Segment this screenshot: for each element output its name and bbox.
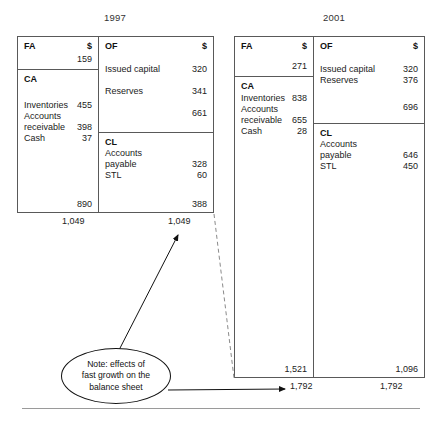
stl-value-2001: 450 bbox=[403, 161, 418, 172]
issued-capital-label-1997: Issued capital bbox=[105, 64, 160, 74]
fixed-assets-code-2001: FA bbox=[241, 41, 253, 51]
accounts-payable-label-line1-1997: Accounts bbox=[105, 148, 142, 158]
line-item-stl-1997: STL 60 bbox=[105, 170, 207, 181]
callout-arrow-to-1997 bbox=[118, 235, 178, 352]
balance-sheet-comparison-diagram: 1997 2001 FA $ 159 CA Inventories 455 Ac… bbox=[0, 0, 442, 424]
callout-line-3: balance sheet bbox=[82, 382, 150, 394]
accounts-receivable-label-line1-2001: Accounts bbox=[241, 104, 278, 114]
accounts-payable-label-line2-2001: payable bbox=[320, 150, 352, 161]
line-item-reserves-1997: Reserves 341 bbox=[105, 86, 207, 97]
owners-funds-total-2001: 696 bbox=[403, 102, 418, 112]
line-item-inventories-2001: Inventories 838 bbox=[241, 93, 307, 104]
current-assets-block-2001: CA Inventories 838 Accounts 655 receivab… bbox=[235, 76, 313, 377]
accounts-payable-label-line2-1997: payable bbox=[105, 159, 137, 170]
current-assets-code-2001: CA bbox=[241, 81, 254, 91]
inventories-label-1997: Inventories bbox=[24, 100, 68, 110]
line-item-stl-2001: STL 450 bbox=[320, 161, 418, 172]
accounts-payable-label-line1-2001: Accounts bbox=[320, 139, 357, 149]
accounts-receivable-label-line2-2001: receivable bbox=[241, 115, 282, 126]
fixed-assets-block-2001: FA $ 271 bbox=[235, 37, 313, 76]
current-liabilities-total-1997: 388 bbox=[192, 199, 207, 209]
grand-total-assets-1997: 1,049 bbox=[62, 216, 85, 226]
line-item-cash-2001: Cash 28 bbox=[241, 126, 307, 137]
liabilities-column-2001: OF $ Issued capital 320 Reserves 376 696… bbox=[313, 37, 424, 377]
fixed-assets-code-1997: FA bbox=[24, 41, 36, 51]
owners-funds-block-1997: OF $ Issued capital 320 Reserves 341 661 bbox=[99, 37, 213, 132]
cash-value-2001: 28 bbox=[297, 126, 307, 137]
issued-capital-value-1997: 320 bbox=[192, 64, 207, 75]
assets-column-1997: FA $ 159 CA Inventories 455 Accounts 398… bbox=[18, 37, 98, 212]
accounts-receivable-label-line2-1997: receivable bbox=[24, 122, 65, 133]
owners-funds-code-2001: OF bbox=[320, 41, 333, 51]
accounts-receivable-value-1997: 398 bbox=[77, 122, 92, 133]
callout-note-text: Note: effects of fast growth on the bala… bbox=[76, 359, 156, 394]
fixed-assets-total-2001: 271 bbox=[292, 61, 307, 71]
current-liabilities-code-1997: CL bbox=[105, 137, 117, 147]
cash-label-2001: Cash bbox=[241, 126, 262, 136]
current-liabilities-block-2001: CL Accounts 646 payable STL 450 1,096 bbox=[314, 123, 424, 377]
owners-funds-total-1997: 661 bbox=[192, 108, 207, 118]
balance-sheet-1997: FA $ 159 CA Inventories 455 Accounts 398… bbox=[17, 36, 214, 213]
assets-column-2001: FA $ 271 CA Inventories 838 Accounts 655… bbox=[235, 37, 313, 377]
line-item-accounts-receivable-2001: Accounts 655 receivable bbox=[241, 104, 307, 115]
current-assets-total-2001: 1,521 bbox=[284, 364, 307, 374]
owners-funds-block-2001: OF $ Issued capital 320 Reserves 376 696 bbox=[314, 37, 424, 123]
inventories-value-2001: 838 bbox=[292, 93, 307, 104]
line-item-accounts-payable-1997: Accounts 328 payable bbox=[105, 148, 207, 159]
line-item-issued-capital-2001: Issued capital 320 bbox=[320, 64, 418, 75]
reserves-value-2001: 376 bbox=[403, 75, 418, 86]
current-assets-total-1997: 890 bbox=[77, 199, 92, 209]
line-item-inventories-1997: Inventories 455 bbox=[24, 100, 92, 111]
fixed-assets-total-1997: 159 bbox=[77, 54, 92, 64]
current-liabilities-code-2001: CL bbox=[320, 128, 332, 138]
stl-value-1997: 60 bbox=[197, 170, 207, 181]
accounts-receivable-value-2001: 655 bbox=[292, 115, 307, 126]
owners-funds-unit-1997: $ bbox=[202, 41, 207, 51]
grand-total-liabilities-1997: 1,049 bbox=[168, 216, 191, 226]
issued-capital-value-2001: 320 bbox=[403, 64, 418, 75]
callout-note-ellipse: Note: effects of fast growth on the bala… bbox=[61, 348, 171, 404]
fixed-assets-unit-2001: $ bbox=[302, 41, 307, 51]
stl-label-2001: STL bbox=[320, 161, 337, 171]
callout-line-1: Note: effects of bbox=[82, 359, 150, 371]
grand-total-liabilities-2001: 1,792 bbox=[380, 381, 403, 391]
line-item-reserves-2001: Reserves 376 bbox=[320, 75, 418, 86]
line-item-cash-1997: Cash 37 bbox=[24, 133, 92, 144]
owners-funds-unit-2001: $ bbox=[413, 41, 418, 51]
footer-divider bbox=[22, 408, 420, 409]
reserves-value-1997: 341 bbox=[192, 86, 207, 97]
line-item-issued-capital-1997: Issued capital 320 bbox=[105, 64, 207, 75]
owners-funds-code-1997: OF bbox=[105, 41, 118, 51]
grand-total-assets-2001: 1,792 bbox=[290, 381, 313, 391]
current-liabilities-total-2001: 1,096 bbox=[395, 364, 418, 374]
line-item-accounts-payable-2001: Accounts 646 payable bbox=[320, 139, 418, 150]
accounts-payable-value-1997: 328 bbox=[192, 159, 207, 170]
current-liabilities-block-1997: CL Accounts 328 payable STL 60 388 bbox=[99, 132, 213, 212]
accounts-receivable-label-line1-1997: Accounts bbox=[24, 111, 61, 121]
accounts-payable-value-2001: 646 bbox=[403, 150, 418, 161]
issued-capital-label-2001: Issued capital bbox=[320, 64, 375, 74]
year-label-1997: 1997 bbox=[104, 12, 126, 23]
liabilities-column-1997: OF $ Issued capital 320 Reserves 341 661… bbox=[98, 37, 213, 212]
year-label-2001: 2001 bbox=[323, 12, 345, 23]
callout-arrow-to-2001 bbox=[168, 389, 285, 390]
inventories-value-1997: 455 bbox=[77, 100, 92, 111]
reserves-label-1997: Reserves bbox=[105, 86, 143, 96]
current-assets-code-1997: CA bbox=[24, 74, 37, 84]
inventories-label-2001: Inventories bbox=[241, 93, 285, 103]
growth-dashed-connector bbox=[214, 214, 234, 378]
cash-label-1997: Cash bbox=[24, 133, 45, 143]
stl-label-1997: STL bbox=[105, 170, 122, 180]
fixed-assets-block-1997: FA $ 159 bbox=[18, 37, 98, 69]
line-item-accounts-receivable-1997: Accounts 398 receivable bbox=[24, 111, 92, 122]
cash-value-1997: 37 bbox=[82, 133, 92, 144]
current-assets-block-1997: CA Inventories 455 Accounts 398 receivab… bbox=[18, 69, 98, 212]
balance-sheet-2001: FA $ 271 CA Inventories 838 Accounts 655… bbox=[234, 36, 425, 378]
reserves-label-2001: Reserves bbox=[320, 75, 358, 85]
callout-line-2: fast growth on the bbox=[82, 370, 150, 382]
fixed-assets-unit-1997: $ bbox=[87, 41, 92, 51]
